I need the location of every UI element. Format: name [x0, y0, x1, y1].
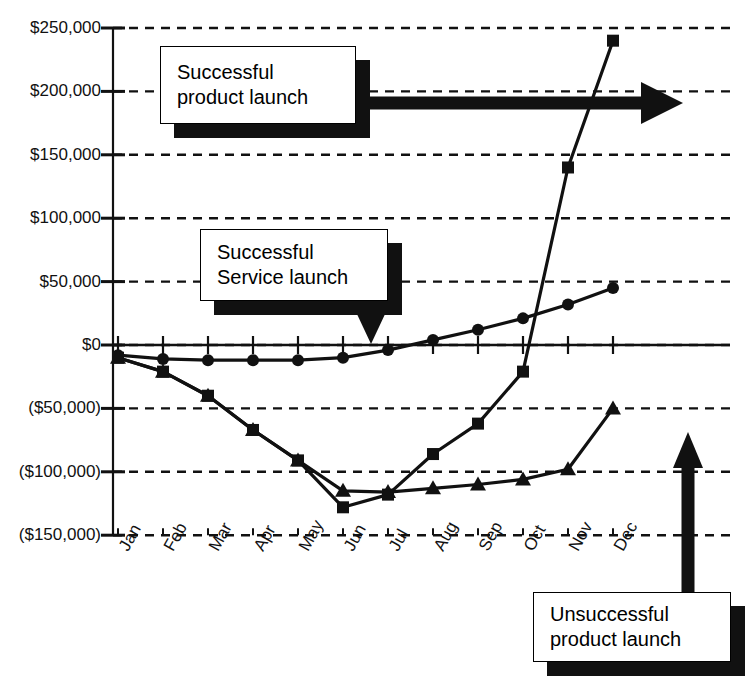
annotation-arrow-head-right[interactable]: [641, 82, 683, 124]
data-point-square[interactable]: [427, 448, 439, 460]
data-point-square[interactable]: [607, 35, 619, 47]
callout-line-1: Successful: [177, 60, 355, 85]
data-point-circle[interactable]: [247, 354, 259, 366]
data-point-circle[interactable]: [382, 344, 394, 356]
data-point-circle[interactable]: [472, 324, 484, 336]
data-point-square[interactable]: [562, 161, 574, 173]
callout-line-2: product launch: [177, 85, 355, 110]
annotation-unsuccessful-product-launch: Unsuccessful product launch: [533, 592, 731, 662]
data-point-circle[interactable]: [292, 354, 304, 366]
series-line-triangle[interactable]: [118, 358, 613, 492]
data-point-circle[interactable]: [517, 312, 529, 324]
data-point-square[interactable]: [517, 366, 529, 378]
callout-box: Successful product launch: [160, 46, 356, 124]
data-point-circle[interactable]: [202, 354, 214, 366]
data-point-circle[interactable]: [607, 282, 619, 294]
data-point-circle[interactable]: [427, 334, 439, 346]
data-point-square[interactable]: [472, 418, 484, 430]
callout-box: Unsuccessful product launch: [533, 592, 731, 662]
callout-line-2: Service launch: [217, 265, 387, 290]
data-point-circle[interactable]: [562, 298, 574, 310]
callout-line-1: Unsuccessful: [550, 602, 730, 627]
data-point-circle[interactable]: [337, 352, 349, 364]
annotation-successful-service-launch: Successful Service launch: [200, 229, 388, 301]
data-point-triangle[interactable]: [605, 400, 621, 414]
callout-box: Successful Service launch: [200, 229, 388, 301]
annotation-successful-product-launch: Successful product launch: [160, 46, 356, 124]
annotation-arrow-head-down[interactable]: [356, 312, 386, 344]
annotation-arrow-head-up[interactable]: [673, 432, 703, 468]
data-point-circle[interactable]: [157, 353, 169, 365]
callout-line-2: product launch: [550, 627, 730, 652]
callout-line-1: Successful: [217, 240, 387, 265]
data-point-square[interactable]: [337, 501, 349, 513]
